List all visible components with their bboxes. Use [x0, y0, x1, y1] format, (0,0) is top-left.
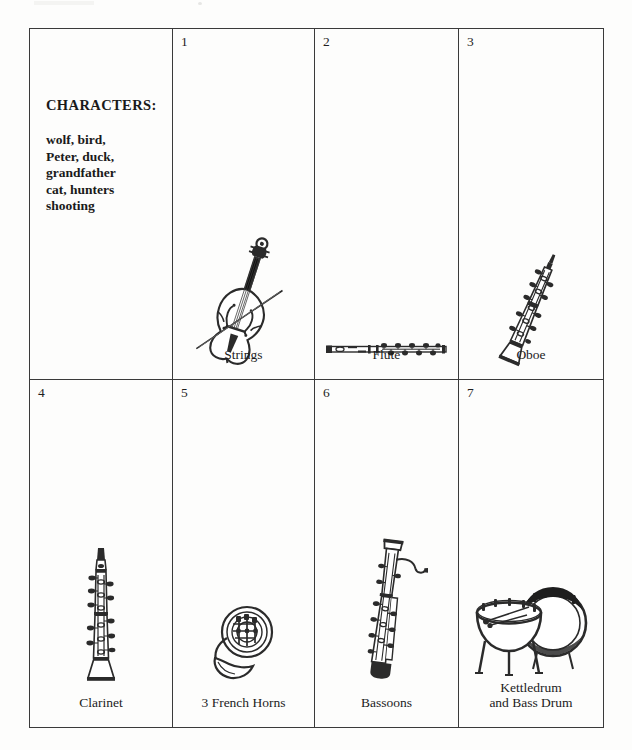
characters-list: wolf, bird, Peter, duck, grandfather cat… — [46, 132, 164, 215]
cell-number: 2 — [323, 35, 330, 49]
cell-number: 5 — [181, 386, 188, 400]
instrument-label-line: Flute — [373, 347, 401, 362]
cell-number: 4 — [38, 386, 45, 400]
instrument-cell-drums: 7 — [459, 380, 604, 728]
instrument-label: Strings — [173, 347, 314, 362]
characters-cell: CHARACTERS: wolf, bird, Peter, duck, gra… — [30, 29, 173, 380]
cell-number: 7 — [467, 386, 474, 400]
document-page: CHARACTERS: wolf, bird, Peter, duck, gra… — [0, 0, 632, 750]
cell-number: 3 — [467, 35, 474, 49]
instrument-cell-strings: 1 — [173, 29, 315, 380]
instrument-label-line: 3 French Horns — [202, 695, 286, 710]
table-row: CHARACTERS: wolf, bird, Peter, duck, gra… — [30, 29, 604, 380]
instrument-label: 3 French Horns — [173, 695, 314, 710]
instrument-label-line: Oboe — [516, 347, 545, 362]
instrument-cell-flute: 2 — [315, 29, 459, 380]
instrument-table: CHARACTERS: wolf, bird, Peter, duck, gra… — [29, 28, 604, 728]
characters-line: cat, hunters — [46, 182, 164, 199]
cell-number: 6 — [323, 386, 330, 400]
instrument-label-line: Bassoons — [361, 695, 412, 710]
table-row: 4 — [30, 380, 604, 728]
cell-number: 1 — [181, 35, 188, 49]
characters-line: Peter, duck, — [46, 149, 164, 166]
kettledrum-bass-drum-icon — [459, 570, 603, 680]
instrument-cell-french-horns: 5 — [173, 380, 315, 728]
instrument-label-line: Strings — [224, 347, 262, 362]
instrument-label: Oboe — [459, 347, 603, 362]
characters-line: wolf, bird, — [46, 132, 164, 149]
characters-line: shooting — [46, 198, 164, 215]
instrument-cell-oboe: 3 — [459, 29, 604, 380]
characters-line: grandfather — [46, 165, 164, 182]
instrument-label-line: Clarinet — [79, 695, 123, 710]
clarinet-icon — [30, 545, 172, 685]
instrument-label: Flute — [315, 347, 458, 362]
instrument-label: Kettledrum and Bass Drum — [459, 680, 603, 710]
instrument-cell-bassoons: 6 — [315, 380, 459, 728]
scan-artifact-speck — [198, 2, 202, 5]
instrument-cell-clarinet: 4 — [30, 380, 173, 728]
instrument-label: Clarinet — [30, 695, 172, 710]
instrument-label: Bassoons — [315, 695, 458, 710]
scan-artifact-smudge — [34, 1, 94, 5]
instrument-label-line: Kettledrum — [459, 680, 603, 695]
instrument-label-line: and Bass Drum — [459, 695, 603, 710]
characters-heading: CHARACTERS: — [46, 97, 164, 114]
characters-block: CHARACTERS: wolf, bird, Peter, duck, gra… — [46, 97, 164, 215]
french-horn-icon — [173, 595, 314, 685]
bassoon-icon — [315, 535, 458, 685]
